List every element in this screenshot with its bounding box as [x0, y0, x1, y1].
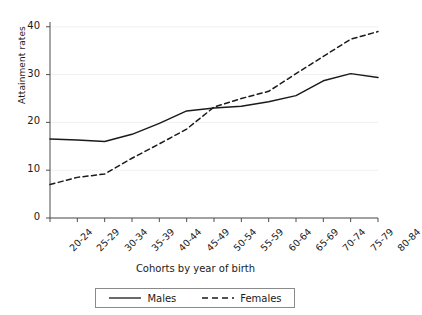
legend-label-females: Females: [240, 293, 281, 304]
legend-item-females[interactable]: Females: [201, 293, 281, 304]
legend-swatch-solid: [108, 294, 142, 302]
legend-swatch-dashed: [201, 294, 235, 302]
legend-item-males[interactable]: Males: [108, 293, 176, 304]
legend-label-males: Males: [147, 293, 176, 304]
y-tick-label-30: 30: [18, 69, 40, 79]
x-axis-title: Cohorts by year of birth: [0, 263, 391, 274]
y-tick-label-40: 40: [18, 21, 40, 31]
y-tick-label-10: 10: [18, 164, 40, 174]
y-tick-label-20: 20: [18, 116, 40, 126]
x-tick-label-80-84: 80-84: [395, 226, 422, 253]
legend: Males Females: [95, 288, 295, 308]
y-tick-label-0: 0: [18, 212, 40, 222]
